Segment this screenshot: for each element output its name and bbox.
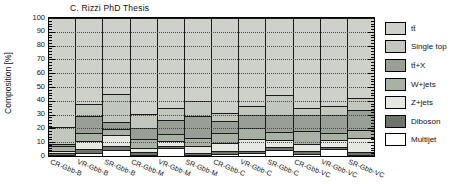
major-tick: [368, 73, 374, 74]
y-tick-label-90: 90: [19, 27, 45, 34]
bar-segment: [185, 18, 211, 101]
minor-tick: [49, 48, 52, 49]
minor-tick: [49, 21, 52, 22]
bar-segment: [239, 106, 265, 115]
major-tick: [368, 142, 374, 143]
bar-segment: [185, 116, 211, 138]
minor-tick: [371, 109, 374, 110]
bar-segment: [266, 140, 292, 147]
legend-row: Z+jets: [385, 93, 457, 112]
minor-tick: [49, 150, 52, 151]
bar-segment: [321, 106, 347, 114]
minor-tick: [49, 51, 52, 52]
minor-tick: [49, 43, 52, 44]
minor-tick: [49, 153, 52, 154]
bar-segment: [76, 104, 102, 116]
minor-tick: [371, 65, 374, 66]
minor-tick: [49, 68, 52, 69]
bar-segment: [158, 108, 184, 120]
minor-tick: [371, 79, 374, 80]
minor-tick: [49, 35, 52, 36]
bar-segment: [266, 132, 292, 140]
minor-tick: [371, 134, 374, 135]
minor-tick: [49, 93, 52, 94]
minor-tick: [371, 35, 374, 36]
minor-tick: [371, 148, 374, 149]
legend-label: Single top: [411, 42, 447, 51]
bar-column-VR-Gbb-VC: [321, 18, 348, 156]
bar-segment: [103, 94, 129, 122]
bar-segment: [239, 153, 265, 156]
bar-segment: [76, 133, 102, 141]
legend-label: W+jets: [411, 80, 436, 89]
legend-swatch: [385, 59, 406, 72]
minor-tick: [371, 84, 374, 85]
major-tick: [49, 115, 55, 116]
bar-segment: [321, 133, 347, 141]
bar-segment: [49, 127, 75, 144]
chart-title: C. Rizzi PhD Thesis: [70, 3, 149, 13]
legend-label: tt̄+X: [411, 61, 425, 70]
bar-segment: [76, 18, 102, 104]
bar-segment: [158, 18, 184, 108]
bar-segment: [212, 121, 238, 133]
bar-column-VR-Gbb-C: [239, 18, 266, 156]
minor-tick: [371, 90, 374, 91]
bar-segment: [239, 115, 265, 128]
minor-tick: [371, 76, 374, 77]
minor-tick: [49, 81, 52, 82]
major-tick: [49, 87, 55, 88]
y-tick-label-50: 50: [19, 83, 45, 90]
minor-tick: [49, 112, 52, 113]
legend-row: Single top: [385, 38, 457, 57]
bar-segment: [294, 18, 320, 108]
bar-segment: [212, 113, 238, 121]
minor-tick: [371, 150, 374, 151]
major-tick: [49, 101, 55, 102]
minor-tick: [371, 126, 374, 127]
minor-tick: [371, 68, 374, 69]
bar-segment: [103, 122, 129, 130]
legend-swatch: [385, 133, 406, 146]
minor-tick: [49, 57, 52, 58]
minor-tick: [49, 120, 52, 121]
minor-tick: [371, 139, 374, 140]
minor-tick: [49, 134, 52, 135]
bar-segment: [49, 155, 75, 156]
y-tick-label-10: 10: [19, 138, 45, 145]
major-tick: [49, 128, 55, 129]
bar-segment: [185, 155, 211, 156]
minor-tick: [371, 95, 374, 96]
bar-segment: [266, 18, 292, 95]
minor-tick: [49, 148, 52, 149]
minor-tick: [371, 29, 374, 30]
minor-tick: [49, 98, 52, 99]
minor-tick: [371, 57, 374, 58]
major-tick: [368, 87, 374, 88]
minor-tick: [371, 37, 374, 38]
minor-tick: [49, 145, 52, 146]
bar-segment: [321, 18, 347, 106]
major-tick: [368, 115, 374, 116]
minor-tick: [49, 37, 52, 38]
y-tick-label-80: 80: [19, 41, 45, 48]
stacked-bars: [49, 18, 374, 156]
bar-segment: [158, 134, 184, 141]
bar-segment: [266, 95, 292, 114]
bar-segment: [131, 18, 157, 114]
bar-segment: [131, 155, 157, 156]
minor-tick: [371, 70, 374, 71]
legend-swatch: [385, 22, 406, 35]
minor-tick: [49, 84, 52, 85]
bar-column-SR-Gbb-B: [103, 18, 130, 156]
minor-tick: [371, 26, 374, 27]
bar-segment: [239, 128, 265, 140]
minor-tick: [49, 79, 52, 80]
minor-tick: [49, 104, 52, 105]
thesis-composition-chart: C. Rizzi PhD Thesis Composition [%] 0102…: [0, 0, 458, 184]
minor-tick: [371, 131, 374, 132]
minor-tick: [49, 139, 52, 140]
y-tick-label-30: 30: [19, 110, 45, 117]
minor-tick: [371, 81, 374, 82]
minor-tick: [371, 24, 374, 25]
